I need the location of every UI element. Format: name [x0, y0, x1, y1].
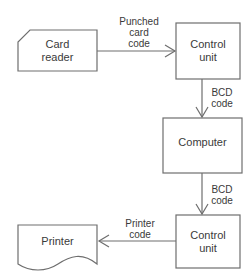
computer-label: Computer — [178, 136, 226, 149]
printer-label: Printer — [41, 235, 73, 248]
edge-label-printer-code: Printer code — [118, 218, 162, 240]
edge-label-line: BCD — [207, 184, 237, 195]
card-reader-node: Card reader — [18, 30, 97, 71]
edge-label-line: Punched — [114, 16, 164, 27]
control-unit-2-node: Control unit — [176, 215, 240, 268]
edge-label-line: code — [114, 38, 164, 49]
control-unit-1-node: Control unit — [176, 23, 240, 79]
edge-label-line: Printer — [118, 218, 162, 229]
edge-label-line: card — [114, 27, 164, 38]
card-reader-label-1: Card — [42, 38, 74, 51]
control-unit-2-label-2: unit — [190, 242, 225, 255]
edge-label-line: BCD — [207, 87, 237, 98]
control-unit-2-label-1: Control — [190, 229, 225, 242]
edge-label-punched-card-code: Punched card code — [114, 16, 164, 49]
computer-node: Computer — [163, 118, 242, 166]
edge-label-line: code — [118, 229, 162, 240]
edge-label-line: code — [207, 195, 237, 206]
edge-label-bcd-code-2: BCD code — [207, 184, 237, 206]
edge-label-line: code — [207, 98, 237, 109]
control-unit-1-label-1: Control — [190, 38, 225, 51]
control-unit-1-label-2: unit — [190, 51, 225, 64]
printer-node: Printer — [18, 232, 97, 250]
edge-label-bcd-code-1: BCD code — [207, 87, 237, 109]
card-reader-label-2: reader — [42, 51, 74, 64]
